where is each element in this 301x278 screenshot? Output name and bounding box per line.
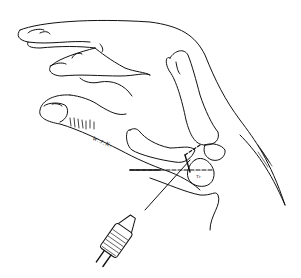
bone-label-trapezium: Tr [196, 174, 201, 179]
medical-illustration: W.J.K. Tr [0, 0, 301, 278]
hand-drawing [0, 0, 301, 278]
